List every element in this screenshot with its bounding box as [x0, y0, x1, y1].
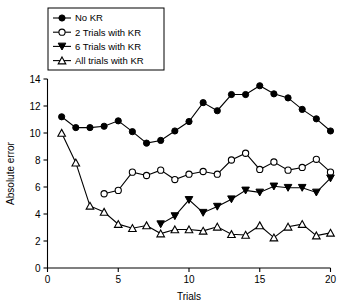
y-axis-title: Absolute error	[5, 141, 16, 204]
series-3	[157, 175, 334, 228]
legend-marker-icon	[59, 29, 65, 35]
data-point	[143, 140, 149, 146]
data-point	[257, 83, 263, 89]
y-tick-label: 8	[35, 155, 41, 166]
data-point	[101, 191, 107, 197]
legend-item-label: No KR	[75, 12, 103, 23]
data-point	[158, 137, 164, 143]
data-point	[129, 129, 135, 135]
data-point	[73, 125, 79, 131]
data-point	[228, 91, 234, 97]
data-point	[228, 157, 234, 163]
y-tick-label: 2	[35, 236, 41, 247]
data-point	[186, 118, 192, 124]
legend-marker-icon	[59, 15, 65, 21]
data-point	[313, 189, 321, 196]
x-axis-title: Trials	[177, 291, 201, 302]
data-point	[214, 171, 220, 177]
data-point	[86, 202, 94, 209]
data-point	[157, 221, 165, 228]
series-4	[58, 129, 334, 241]
data-point	[58, 129, 66, 136]
data-point	[172, 176, 178, 182]
series-line	[62, 86, 331, 143]
x-tick-label: 15	[254, 274, 266, 285]
data-point	[157, 230, 165, 237]
data-point	[59, 114, 65, 120]
series-1	[59, 83, 334, 147]
data-point	[143, 222, 151, 229]
data-point	[313, 116, 319, 122]
data-point	[285, 95, 291, 101]
chart-legend: No KR2 Trials with KR6 Trials with KRAll…	[48, 8, 164, 70]
data-point	[327, 169, 333, 175]
series-2	[101, 150, 334, 197]
data-point	[243, 91, 249, 97]
data-point	[313, 156, 319, 162]
data-point	[199, 209, 207, 216]
y-tick-label: 0	[35, 263, 41, 274]
x-tick-label: 0	[45, 274, 51, 285]
data-point	[299, 106, 305, 112]
data-point	[172, 128, 178, 134]
data-point	[143, 172, 149, 178]
legend-item-label: All trials with KR	[75, 55, 144, 66]
data-point	[257, 166, 263, 172]
data-point	[200, 168, 206, 174]
y-tick-label: 10	[29, 128, 41, 139]
data-point	[228, 196, 236, 203]
y-tick-label: 6	[35, 182, 41, 193]
data-series	[58, 83, 334, 241]
y-tick-label: 14	[29, 74, 41, 85]
data-point	[214, 203, 222, 210]
data-point	[271, 91, 277, 97]
data-point	[214, 108, 220, 114]
data-point	[327, 229, 335, 236]
data-point	[298, 221, 306, 228]
data-point	[72, 159, 80, 166]
line-chart: 0246810121405101520TrialsAbsolute error …	[0, 0, 356, 308]
data-point	[115, 187, 121, 193]
y-tick-label: 12	[29, 101, 41, 112]
data-point	[171, 213, 179, 220]
data-point	[243, 150, 249, 156]
data-point	[200, 100, 206, 106]
y-tick-label: 4	[35, 209, 41, 220]
data-point	[186, 171, 192, 177]
data-point	[158, 167, 164, 173]
data-point	[100, 208, 108, 215]
legend-item-label: 2 Trials with KR	[75, 27, 141, 38]
x-tick-label: 5	[115, 274, 121, 285]
data-point	[256, 222, 264, 229]
data-point	[271, 159, 277, 165]
data-point	[285, 167, 291, 173]
x-tick-label: 10	[183, 274, 195, 285]
x-tick-label: 20	[325, 274, 337, 285]
legend-item-label: 6 Trials with KR	[75, 41, 141, 52]
chart-figure: 0246810121405101520TrialsAbsolute error …	[0, 0, 356, 308]
data-point	[115, 118, 121, 124]
data-point	[327, 128, 333, 134]
data-point	[129, 169, 135, 175]
data-point	[299, 164, 305, 170]
data-point	[87, 125, 93, 131]
data-point	[101, 123, 107, 129]
data-point	[214, 223, 222, 230]
